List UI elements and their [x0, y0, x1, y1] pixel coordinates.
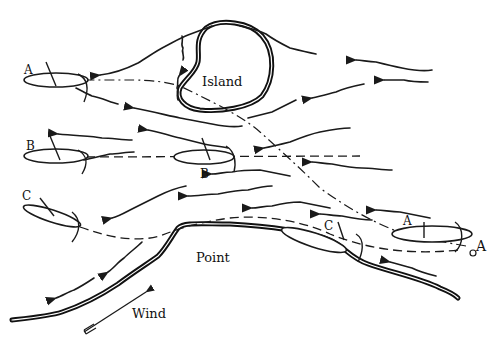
- boat-a-end: A: [23, 62, 88, 102]
- boat-b-end-label: B: [26, 139, 35, 153]
- boat-b-start-label: B: [200, 167, 209, 181]
- boat-a-end-label: A: [23, 63, 33, 77]
- boat-c-start-label: C: [324, 219, 333, 233]
- island: Island: [179, 22, 272, 110]
- point-label: Point: [196, 250, 231, 265]
- wind-label: Wind: [132, 306, 166, 321]
- boat-b-start: B: [174, 138, 235, 181]
- boat-a-start: A: [392, 214, 472, 252]
- island-label: Island: [202, 74, 242, 89]
- boat-c-end: C: [22, 189, 83, 242]
- boat-c-end-label: C: [22, 189, 31, 203]
- point-shoreline: Point: [12, 224, 458, 320]
- boat-b-end: B: [24, 136, 88, 174]
- mark-a-label: A: [475, 238, 487, 254]
- wind-flow-lines: [56, 26, 436, 298]
- boat-a-start-label: A: [402, 214, 412, 228]
- sailing-wind-diagram: Island Point Wind: [0, 0, 502, 346]
- mark-a: A: [470, 238, 487, 256]
